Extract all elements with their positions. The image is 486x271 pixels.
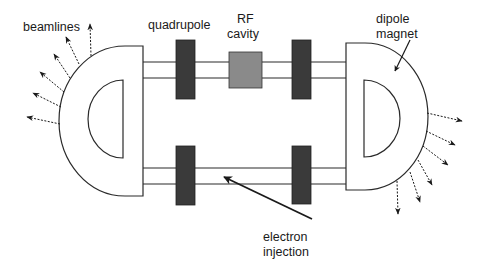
quadrupole-bottom-left: [176, 146, 195, 205]
quadrupole-top-right: [292, 40, 311, 99]
bottom-straight-section: [143, 168, 346, 184]
rf-cavity: [229, 52, 262, 88]
label-rf-line1: RF: [237, 12, 254, 26]
label-quadrupole: quadrupole: [148, 18, 211, 32]
dipole-magnet-right: [346, 43, 428, 190]
quadrupole-top-left: [176, 40, 195, 99]
label-rf-line2: cavity: [227, 27, 260, 41]
dipole-magnet-left: [59, 46, 143, 196]
label-dipole-line1: dipole: [376, 12, 409, 26]
label-dipole-line2: magnet: [376, 27, 418, 41]
label-beamlines: beamlines: [23, 20, 80, 34]
label-injection-line2: injection: [263, 245, 309, 259]
label-injection-line1: electron: [263, 230, 308, 244]
quadrupole-bottom-right: [292, 146, 311, 204]
storage-ring-diagram: beamlines quadrupole RF cavity dipole ma…: [0, 0, 486, 271]
